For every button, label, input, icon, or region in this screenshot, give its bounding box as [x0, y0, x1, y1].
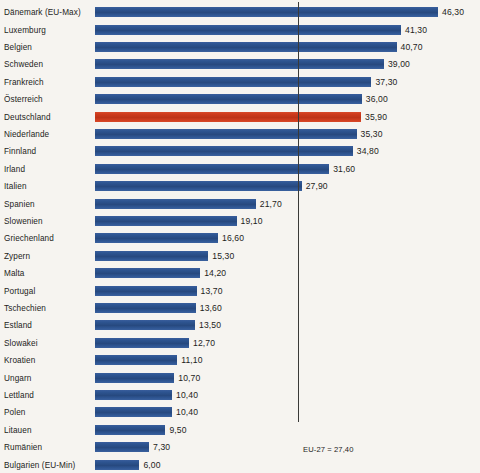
category-label: Estland	[4, 321, 32, 330]
bar-row: Frankreich37,30	[0, 73, 480, 90]
reference-line-eu27	[298, 2, 299, 422]
value-label: 35,30	[361, 129, 383, 139]
bar-row: Luxemburg41,30	[0, 21, 480, 38]
bar-row: Finnland34,80	[0, 143, 480, 160]
bar-row: Estland13,50	[0, 317, 480, 334]
bar-row: Schweden39,00	[0, 56, 480, 73]
category-label: Portugal	[4, 286, 35, 295]
bar	[95, 42, 397, 52]
category-label: Griechenland	[4, 234, 54, 243]
bar-row: Kroatien11,10	[0, 352, 480, 369]
value-label: 6,00	[143, 460, 160, 470]
category-label: Italien	[4, 182, 27, 191]
bar-row: Spanien21,70	[0, 195, 480, 212]
category-label: Zypern	[4, 251, 30, 260]
bar-row: Malta14,20	[0, 265, 480, 282]
bar	[95, 373, 174, 383]
bar-row: Belgien40,70	[0, 38, 480, 55]
reference-line-label: EU-27 = 27,40	[303, 445, 353, 454]
bar	[95, 146, 353, 156]
value-label: 39,00	[388, 59, 410, 69]
value-label: 10,40	[176, 390, 198, 400]
bar	[95, 164, 329, 174]
value-label: 10,40	[176, 407, 198, 417]
bar-row: Italien27,90	[0, 178, 480, 195]
bar-row: Tschechien13,60	[0, 299, 480, 316]
bar-row: Dänemark (EU-Max)46,30	[0, 4, 480, 21]
category-label: Spanien	[4, 199, 35, 208]
value-label: 12,70	[193, 338, 215, 348]
category-label: Irland	[4, 164, 25, 173]
value-label: 21,70	[260, 199, 282, 209]
category-label: Slowakei	[4, 338, 38, 347]
bar	[95, 355, 177, 365]
bar-row: Ungarn10,70	[0, 369, 480, 386]
bar	[95, 77, 371, 87]
value-label: 35,90	[365, 112, 387, 122]
category-label: Litauen	[4, 425, 32, 434]
bar-row: Irland31,60	[0, 160, 480, 177]
bar-row: Portugal13,70	[0, 282, 480, 299]
value-label: 46,30	[442, 7, 464, 17]
category-label: Luxemburg	[4, 25, 46, 34]
bar-row: Slowenien19,10	[0, 212, 480, 229]
category-label: Slowenien	[4, 216, 43, 225]
value-label: 15,30	[212, 251, 234, 261]
value-label: 16,60	[222, 233, 244, 243]
bar-row: Deutschland35,90	[0, 108, 480, 125]
bar	[95, 129, 357, 139]
bar	[95, 25, 401, 35]
value-label: 13,70	[201, 286, 223, 296]
bar-row: Rumänien7,30	[0, 439, 480, 456]
bar-row: Österreich36,00	[0, 91, 480, 108]
bar	[95, 251, 208, 261]
value-label: 7,30	[153, 442, 170, 452]
bar	[95, 460, 139, 470]
bar	[95, 320, 195, 330]
bar	[95, 407, 172, 417]
value-label: 9,50	[169, 425, 186, 435]
bar-row: Litauen9,50	[0, 421, 480, 438]
category-label: Rumänien	[4, 443, 42, 452]
bar	[95, 286, 197, 296]
bar	[95, 233, 218, 243]
value-label: 40,70	[401, 42, 423, 52]
category-label: Deutschland	[4, 112, 51, 121]
bar-row: Polen10,40	[0, 404, 480, 421]
value-label: 27,90	[306, 181, 328, 191]
value-label: 19,10	[241, 216, 263, 226]
value-label: 31,60	[333, 164, 355, 174]
category-label: Frankreich	[4, 77, 44, 86]
bar-row: Zypern15,30	[0, 247, 480, 264]
bar-row: Slowakei12,70	[0, 334, 480, 351]
category-label: Österreich	[4, 95, 43, 104]
bar	[95, 390, 172, 400]
bar-row: Griechenland16,60	[0, 230, 480, 247]
value-label: 10,70	[178, 373, 200, 383]
category-label: Belgien	[4, 42, 32, 51]
value-label: 37,30	[375, 77, 397, 87]
value-label: 36,00	[366, 94, 388, 104]
category-label: Malta	[4, 269, 25, 278]
bar	[95, 425, 165, 435]
category-label: Lettland	[4, 390, 34, 399]
bar	[95, 181, 302, 191]
category-label: Bulgarien (EU-Min)	[4, 460, 75, 469]
bar-row: Bulgarien (EU-Min)6,00	[0, 456, 480, 473]
bar	[95, 303, 196, 313]
value-label: 11,10	[181, 355, 202, 365]
bar	[95, 7, 438, 17]
category-label: Dänemark (EU-Max)	[4, 8, 81, 17]
category-label: Ungarn	[4, 373, 31, 382]
bar	[95, 94, 362, 104]
category-label: Tschechien	[4, 303, 46, 312]
category-label: Schweden	[4, 60, 43, 69]
category-label: Niederlande	[4, 129, 49, 138]
value-label: 34,80	[357, 146, 379, 156]
bar	[95, 59, 384, 69]
bar	[95, 268, 200, 278]
bar	[95, 199, 256, 209]
value-label: 41,30	[405, 25, 427, 35]
bar-row: Niederlande35,30	[0, 125, 480, 142]
